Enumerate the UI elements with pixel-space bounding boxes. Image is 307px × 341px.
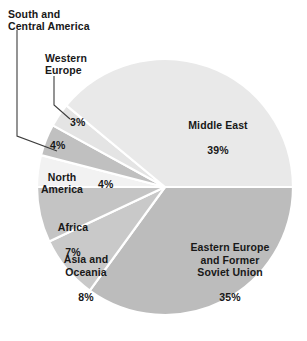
slice-label-western-europe-percent: 3% (70, 116, 96, 128)
slice-label-eastern-europe: Eastern Europe and Former Soviet Union 3… (178, 229, 282, 303)
callout-label-south-central-america: South and Central America (8, 8, 104, 33)
slice-label-eastern-europe-percent: 35% (219, 291, 240, 303)
slice-label-africa-name: Africa (58, 221, 88, 233)
pie-chart-figure: Middle East 39% Eastern Europe and Forme… (0, 0, 307, 341)
slice-label-asia-oceania-percent: 8% (78, 291, 93, 303)
callout-label-western-europe: Western Europe (45, 52, 123, 77)
slice-label-middle-east-name: Middle East (188, 119, 247, 131)
slice-label-north-america-percent: 4% (98, 178, 124, 190)
slice-label-south-central-america-percent: 4% (50, 139, 76, 151)
slice-label-eastern-europe-name: Eastern Europe and Former Soviet Union (190, 241, 269, 278)
slice-label-asia-oceania: Asia and Oceania 8% (43, 241, 129, 303)
slice-label-north-america-name: North America (29, 171, 95, 196)
slice-label-middle-east: Middle East 39% (172, 107, 264, 157)
slice-label-middle-east-percent: 39% (207, 144, 228, 156)
slice-label-asia-oceania-name: Asia and Oceania (64, 253, 109, 277)
